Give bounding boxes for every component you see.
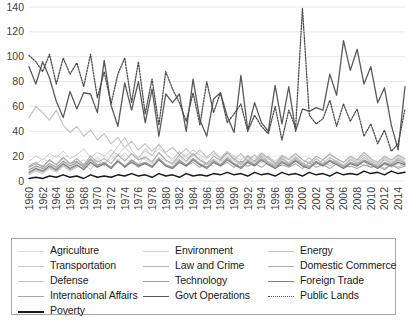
legend-line-swatch: [143, 246, 169, 255]
legend-item-label: Public Lands: [300, 290, 359, 301]
series-line-poverty: [29, 171, 405, 178]
x-axis-tick-label: 1962: [37, 187, 49, 211]
x-axis-tick-label: 1992: [242, 187, 254, 211]
legend-line-swatch: [268, 246, 294, 255]
x-axis-tick-label: 1960: [23, 187, 35, 211]
legend-line-swatch: [18, 306, 44, 315]
y-axis-tick-label: 120: [6, 25, 24, 37]
legend-item-poverty[interactable]: Poverty: [18, 303, 143, 318]
legend-line-swatch: [143, 261, 169, 270]
x-axis-tick-label: 1974: [119, 187, 131, 211]
y-axis-tick-label: 20: [12, 150, 24, 162]
legend-line-swatch: [18, 276, 44, 285]
x-axis-tick-label: 1964: [50, 187, 62, 211]
x-axis-tick-label: 2014: [392, 187, 404, 211]
legend-item-environment[interactable]: Environment: [143, 243, 268, 258]
legend-item-govt-operations[interactable]: Govt Operations: [143, 288, 268, 303]
x-axis-tick-label: 1990: [228, 187, 240, 211]
legend-item-label: Technology: [175, 275, 227, 286]
series-line-public-lands: [29, 8, 405, 151]
legend-item-label: Energy: [300, 245, 333, 256]
y-axis-tick-label: 0: [18, 175, 24, 187]
x-axis-tick-label: 1996: [269, 187, 281, 211]
x-axis-tick-label: 2000: [296, 187, 308, 211]
x-axis-tick-label: 2010: [365, 187, 377, 211]
x-axis-tick-label: 1966: [64, 187, 76, 211]
legend-item-label: Agriculture: [50, 245, 99, 256]
legend-item-technology[interactable]: Technology: [143, 273, 268, 288]
x-axis-tick-label: 1998: [283, 187, 295, 211]
legend-item-domestic-commerce[interactable]: Domestic Commerce: [268, 258, 393, 273]
x-axis-tick-label: 1984: [187, 187, 199, 211]
chart-figure: 020406080100120140 196019621964196619681…: [0, 0, 408, 323]
y-axis-tick-label: 60: [12, 100, 24, 112]
legend-item-law-and-crime[interactable]: Law and Crime: [143, 258, 268, 273]
y-axis-tick-label: 140: [6, 1, 24, 13]
y-axis-tick-label: 80: [12, 75, 24, 87]
y-axis-tick-labels: 020406080100120140: [6, 1, 24, 187]
x-axis-tick-label: 1986: [201, 187, 213, 211]
x-axis-tick-label: 1968: [78, 187, 90, 211]
x-axis-tick-labels: 1960196219641966196819701972197419761978…: [23, 187, 404, 211]
legend-line-swatch: [268, 261, 294, 270]
data-series-group: [29, 8, 405, 178]
legend-item-transportation[interactable]: Transportation: [18, 258, 143, 273]
legend-line-swatch: [18, 261, 44, 270]
x-axis-tick-label: 1988: [214, 187, 226, 211]
legend-grid: AgricultureEnvironmentEnergyTransportati…: [18, 243, 393, 318]
chart-legend: AgricultureEnvironmentEnergyTransportati…: [11, 238, 396, 315]
legend-item-label: International Affairs: [50, 290, 138, 301]
legend-item-label: Govt Operations: [175, 290, 250, 301]
legend-line-swatch: [268, 276, 294, 285]
legend-item-energy[interactable]: Energy: [268, 243, 393, 258]
x-axis-tick-label: 1970: [91, 187, 103, 211]
y-axis-tick-label: 40: [12, 125, 24, 137]
legend-item-label: Poverty: [50, 305, 85, 316]
legend-line-swatch: [143, 291, 169, 300]
legend-item-international-affairs[interactable]: International Affairs: [18, 288, 143, 303]
legend-line-swatch: [18, 291, 44, 300]
legend-item-agriculture[interactable]: Agriculture: [18, 243, 143, 258]
x-axis-tick-label: 2004: [324, 187, 336, 211]
legend-item-defense[interactable]: Defense: [18, 273, 143, 288]
legend-item-label: Foreign Trade: [300, 275, 364, 286]
x-axis-tick-label: 1976: [132, 187, 144, 211]
x-axis-tick-label: 2006: [337, 187, 349, 211]
x-axis-tick-label: 1978: [146, 187, 158, 211]
y-axis-tick-label: 100: [6, 50, 24, 62]
legend-item-label: Environment: [175, 245, 233, 256]
x-axis-tick-label: 1994: [255, 187, 267, 211]
legend-item-foreign-trade[interactable]: Foreign Trade: [268, 273, 393, 288]
x-axis-tick-label: 1980: [160, 187, 172, 211]
legend-item-public-lands[interactable]: Public Lands: [268, 288, 393, 303]
plot-svg: 020406080100120140 196019621964196619681…: [0, 0, 408, 232]
x-axis-tick-label: 1972: [105, 187, 117, 211]
legend-line-swatch: [18, 246, 44, 255]
plot-area: 020406080100120140 196019621964196619681…: [0, 0, 408, 232]
x-axis-tick-label: 2012: [378, 187, 390, 211]
x-axis-tick-label: 2008: [351, 187, 363, 211]
legend-item-label: Transportation: [50, 260, 116, 271]
legend-item-label: Law and Crime: [175, 260, 244, 271]
legend-line-swatch: [268, 291, 294, 300]
legend-line-swatch: [143, 276, 169, 285]
legend-item-label: Defense: [50, 275, 88, 286]
legend-item-label: Domestic Commerce: [300, 260, 396, 271]
x-axis-tick-label: 1982: [173, 187, 185, 211]
x-axis-tick-label: 2002: [310, 187, 322, 211]
